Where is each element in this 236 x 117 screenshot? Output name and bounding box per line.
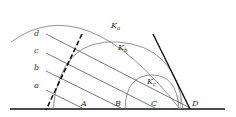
label-b: b — [34, 63, 39, 72]
label-C: C — [151, 99, 157, 108]
tangent-line — [153, 34, 190, 109]
label-D: D — [191, 99, 199, 108]
label-A: A — [80, 99, 87, 108]
label-d: d — [34, 29, 39, 38]
label-kb: Kb — [117, 43, 128, 53]
line-c — [46, 53, 155, 108]
label-B: B — [114, 99, 121, 108]
diagram-canvas: a b c d A B C D Ka Kb Kc — [0, 0, 236, 117]
label-a: a — [34, 81, 39, 90]
label-ka: Ka — [110, 21, 120, 31]
label-c: c — [34, 46, 39, 55]
label-kc: Kc — [146, 77, 156, 87]
